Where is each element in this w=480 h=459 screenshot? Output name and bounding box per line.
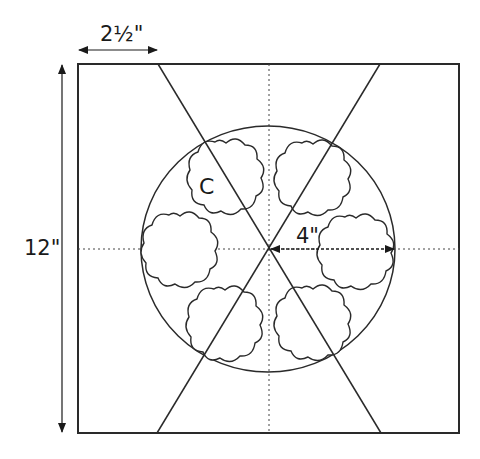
flower-bottom-left <box>186 286 263 362</box>
radius-label: 4" <box>296 224 319 248</box>
block-diagram <box>0 0 480 459</box>
width-label: 2½" <box>100 22 143 46</box>
flower-right <box>317 214 394 290</box>
height-label: 12" <box>24 236 60 260</box>
flower-top-right <box>274 140 351 216</box>
flower-left <box>141 212 218 288</box>
flower-bottom-right <box>274 285 351 361</box>
applique-label: C <box>199 174 214 199</box>
